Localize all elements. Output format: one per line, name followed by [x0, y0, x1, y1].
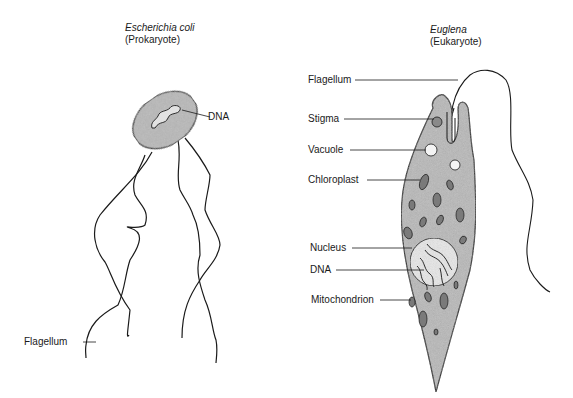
vacuole: [425, 144, 437, 156]
ecoli-organism-name: Escherichia coli: [125, 22, 194, 34]
euglena-organism-name: Euglena: [430, 24, 482, 36]
euglena-classification: (Eukaryote): [430, 36, 482, 47]
label-nucleus: Nucleus: [310, 242, 346, 254]
label-stigma: Stigma: [308, 113, 339, 125]
ecoli-title: Escherichia coli (Prokaryote): [125, 22, 194, 46]
vacuole: [450, 160, 460, 170]
euglena-cell: [401, 95, 475, 392]
label-ecoli-flagellum: Flagellum: [24, 336, 67, 348]
label-mitochondrion: Mitochondrion: [311, 294, 374, 306]
ecoli-flagella: [86, 138, 220, 363]
label-euglena-flagellum: Flagellum: [308, 74, 351, 86]
label-ecoli-dna: DNA: [208, 111, 229, 123]
ecoli-cell: [122, 79, 210, 160]
euglena-title: Euglena (Eukaryote): [430, 24, 482, 48]
stigma: [432, 117, 442, 127]
label-euglena-dna: DNA: [310, 264, 331, 276]
label-chloroplast: Chloroplast: [308, 174, 359, 186]
ecoli-classification: (Prokaryote): [125, 34, 180, 45]
label-vacuole: Vacuole: [308, 144, 343, 156]
diagram-canvas: [0, 0, 573, 398]
nucleus: [410, 238, 458, 286]
